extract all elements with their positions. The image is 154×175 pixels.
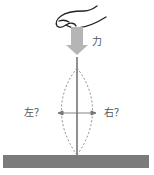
hand-icon: [56, 6, 106, 28]
buckling-diagram: 力 左？ 右？: [0, 0, 154, 175]
ground: [3, 155, 149, 168]
force-arrow-icon: [66, 27, 88, 55]
left-label: 左？: [24, 107, 44, 119]
force-label: 力: [92, 36, 102, 48]
right-label: 右？: [104, 107, 124, 119]
